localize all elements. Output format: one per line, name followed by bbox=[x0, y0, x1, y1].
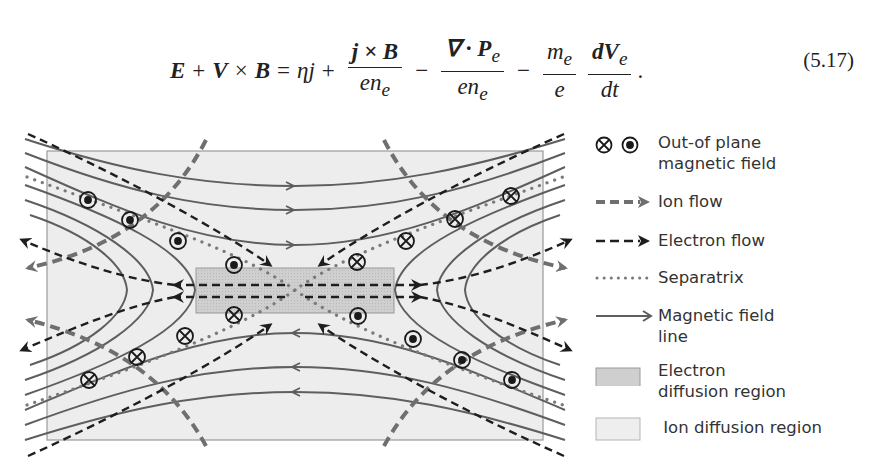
inertia-term: dVe dt bbox=[588, 39, 631, 103]
inertia-numerator: dVe bbox=[588, 39, 631, 75]
equation-body: E + V × B = ηj + j × B ene − ∇ · Pe ene … bbox=[170, 36, 643, 106]
legend-symbol-out-of-plane bbox=[594, 132, 658, 154]
legend-label-ion-diffusion: Ion diffusion region bbox=[658, 417, 822, 438]
legend-item-magnetic-field-line: Magnetic field line bbox=[594, 305, 774, 347]
eq-minus-1: − bbox=[415, 58, 428, 84]
inertia-num-text: dV bbox=[592, 39, 619, 64]
ohms-law-equation: E + V × B = ηj + j × B ene − ∇ · Pe ene … bbox=[0, 0, 872, 110]
hall-den-sub: e bbox=[382, 79, 391, 100]
eq-B: B bbox=[255, 58, 270, 84]
pressure-denominator: ene bbox=[453, 72, 491, 107]
legend-label-line: diffusion region bbox=[658, 381, 786, 402]
eq-equals: = bbox=[277, 58, 290, 84]
pressure-den-text: en bbox=[457, 74, 479, 99]
eq-eta-j: ηj bbox=[297, 58, 315, 84]
legend-item-ion-diffusion: Ion diffusion region bbox=[594, 417, 822, 439]
mass-numerator: me bbox=[543, 39, 576, 75]
legend-label-line: Electron bbox=[658, 360, 786, 381]
eq-plus-2: + bbox=[322, 58, 335, 84]
legend-item-out-of-plane: Out-of plane magnetic field bbox=[594, 132, 776, 174]
solid-arrow-icon bbox=[594, 305, 658, 327]
eq-V: V bbox=[212, 58, 227, 84]
eq-E: E bbox=[170, 58, 185, 84]
legend-label-ion-flow: Ion flow bbox=[658, 191, 723, 212]
legend-item-electron-flow: Electron flow bbox=[594, 230, 765, 252]
ion-flow-arrow-icon bbox=[594, 191, 658, 213]
pressure-num-text: ∇ · P bbox=[445, 36, 491, 61]
legend-label-magnetic-field-line: Magnetic field line bbox=[658, 305, 774, 347]
dot-symbol-icon bbox=[623, 138, 638, 153]
eq-cross: × bbox=[235, 58, 248, 84]
legend-label-line: Magnetic field bbox=[658, 305, 774, 326]
hall-term: j × B ene bbox=[348, 39, 402, 103]
dark-gray-box-icon bbox=[594, 360, 658, 382]
legend-item-electron-diffusion: Electron diffusion region bbox=[594, 360, 786, 402]
inertia-num-sub: e bbox=[619, 48, 628, 69]
reconnection-diagram bbox=[0, 120, 580, 466]
cross-symbol-icon bbox=[597, 138, 612, 153]
dotted-line-icon bbox=[594, 267, 658, 289]
hall-denominator: ene bbox=[356, 68, 394, 103]
legend-label-separatrix: Separatrix bbox=[658, 267, 744, 288]
legend-label-out-of-plane: Out-of plane magnetic field bbox=[658, 132, 776, 174]
mass-term: me e bbox=[543, 39, 576, 103]
mass-num-sub: e bbox=[564, 48, 573, 69]
light-gray-box-icon bbox=[594, 417, 658, 439]
equation-number: (5.17) bbox=[803, 48, 854, 73]
pressure-term: ∇ · Pe ene bbox=[441, 36, 504, 106]
eq-minus-2: − bbox=[517, 58, 530, 84]
pressure-num-sub: e bbox=[491, 45, 500, 66]
mass-denominator: e bbox=[550, 75, 568, 103]
eq-period: . bbox=[637, 58, 643, 84]
legend-label-line: magnetic field bbox=[658, 153, 776, 174]
pressure-den-sub: e bbox=[479, 82, 488, 103]
inertia-denominator: dt bbox=[597, 75, 623, 103]
mass-num-text: m bbox=[547, 39, 564, 64]
pressure-numerator: ∇ · Pe bbox=[441, 36, 504, 72]
legend-item-separatrix: Separatrix bbox=[594, 267, 744, 289]
legend-item-ion-flow: Ion flow bbox=[594, 191, 723, 213]
eq-plus: + bbox=[192, 58, 205, 84]
legend-label-line: line bbox=[658, 326, 774, 347]
hall-den-text: en bbox=[360, 70, 382, 95]
electron-flow-arrow-icon bbox=[594, 230, 658, 252]
legend-label-electron-diffusion: Electron diffusion region bbox=[658, 360, 786, 402]
legend-label-electron-flow: Electron flow bbox=[658, 230, 765, 251]
legend-label-line: Out-of plane bbox=[658, 132, 776, 153]
hall-numerator: j × B bbox=[348, 39, 402, 68]
